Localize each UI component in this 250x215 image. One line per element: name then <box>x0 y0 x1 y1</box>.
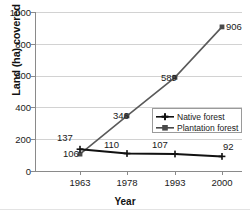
line-diamond-marker-icon <box>156 112 174 121</box>
data-label-plantation-2000: 906 <box>226 21 242 32</box>
bottom-divider <box>0 209 250 210</box>
x-axis-line <box>35 171 242 172</box>
x-tick-mark <box>80 171 81 175</box>
x-tick-mark <box>175 171 176 175</box>
x-tick-label-1978: 1978 <box>116 177 137 188</box>
chart-legend: Native forest Plantation forest <box>152 108 242 133</box>
y-axis-line <box>35 12 36 172</box>
y-tick-label-1000: 1000 <box>0 7 31 18</box>
plantation-forest-line <box>80 27 222 154</box>
x-tick-mark <box>127 171 128 175</box>
data-label-plantation-1993: 589 <box>161 72 177 83</box>
line-chart: Land (ha) covered 1000 800 600 400 200 0 <box>0 0 250 215</box>
legend-item-plantation-forest: Plantation forest <box>156 122 238 133</box>
native-point-1978 <box>124 150 131 157</box>
legend-label-plantation-forest: Plantation forest <box>177 123 238 133</box>
native-forest-line <box>80 149 222 156</box>
native-point-2000 <box>219 153 226 160</box>
data-label-native-2000: 92 <box>223 141 234 152</box>
x-axis-title: Year <box>0 196 250 207</box>
x-tick-label-1993: 1993 <box>164 177 185 188</box>
data-label-native-1978: 110 <box>104 139 119 150</box>
x-tick-label-2000: 2000 <box>211 177 232 188</box>
data-label-plantation-1963: 106 <box>63 148 79 159</box>
data-label-plantation-1978: 346 <box>113 110 129 121</box>
legend-label-native-forest: Native forest <box>177 112 225 122</box>
x-tick-label-1963: 1963 <box>69 177 90 188</box>
y-tick-label-400: 400 <box>0 102 31 113</box>
y-tick-label-0: 0 <box>0 166 31 177</box>
y-tick-label-200: 200 <box>0 134 31 145</box>
data-label-native-1963: 137 <box>57 132 73 143</box>
y-tick-label-800: 800 <box>0 39 31 50</box>
x-tick-mark <box>222 171 223 175</box>
y-tick-label-600: 600 <box>0 70 31 81</box>
plantation-point-2000 <box>220 25 225 30</box>
line-square-marker-icon <box>156 123 174 132</box>
data-label-native-1993: 107 <box>152 139 168 150</box>
native-point-1993 <box>172 151 179 158</box>
legend-item-native-forest: Native forest <box>156 111 238 122</box>
